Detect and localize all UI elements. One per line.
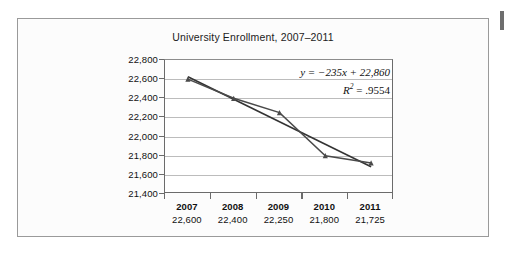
y-axis-tick-label: 22,200	[128, 111, 158, 122]
x-axis-category: 200822,400	[210, 200, 256, 227]
y-axis-labels: 22,80022,60022,40022,20022,00021,80021,6…	[94, 59, 158, 193]
y-axis-tick-label: 22,400	[128, 92, 158, 103]
equation-expression: = −235x + 22,860	[305, 66, 390, 78]
x-axis-year-label: 2011	[347, 200, 393, 213]
x-axis-value-label: 21,800	[301, 213, 347, 227]
x-axis-category: 200922,250	[256, 200, 302, 227]
figure-card: University Enrollment, 2007–2011 22,8002…	[17, 18, 489, 237]
y-axis-tick	[159, 155, 164, 156]
x-axis-tick	[301, 193, 302, 199]
y-axis-tick	[159, 174, 164, 175]
x-axis-value-label: 22,600	[164, 213, 210, 227]
x-axis-ticks	[164, 193, 393, 199]
x-axis-category: 201121,725	[347, 200, 393, 227]
x-axis-year-label: 2010	[301, 200, 347, 213]
y-axis-tick	[159, 193, 164, 194]
chart-canvas: 22,80022,60022,40022,20022,00021,80021,6…	[18, 19, 488, 236]
y-axis-tick-label: 21,600	[128, 168, 158, 179]
y-axis-tick-label: 21,400	[128, 188, 158, 199]
y-axis-tick-label: 21,800	[128, 149, 158, 160]
x-axis-value-label: 22,400	[210, 213, 256, 227]
x-axis-tick	[210, 193, 211, 199]
x-axis-value-label: 22,250	[256, 213, 302, 227]
trendline-annotation: y = −235x + 22,860 R2 = .9554	[234, 65, 390, 97]
x-axis-tick	[164, 193, 165, 199]
y-axis-tick	[159, 97, 164, 98]
y-axis-tick	[159, 136, 164, 137]
x-axis-category: 201021,800	[301, 200, 347, 227]
x-axis-tick	[256, 193, 257, 199]
trendline-equation: y = −235x + 22,860	[234, 65, 390, 79]
x-axis-tick	[347, 193, 348, 199]
x-axis-labels: 200722,600200822,400200922,250201021,800…	[164, 200, 393, 234]
x-axis-category: 200722,600	[164, 200, 210, 227]
y-axis-tick	[159, 59, 164, 60]
y-axis-tick-label: 22,600	[128, 73, 158, 84]
x-axis-value-label: 21,725	[347, 213, 393, 227]
x-axis-year-label: 2007	[164, 200, 210, 213]
y-axis-tick-label: 22,800	[128, 54, 158, 65]
y-axis-tick	[159, 116, 164, 117]
x-axis-year-label: 2008	[210, 200, 256, 213]
y-axis-tick	[159, 78, 164, 79]
r-squared-value: R2 = .9554	[234, 80, 390, 97]
r-symbol: R	[343, 84, 350, 96]
screenshot-root: University Enrollment, 2007–2011 22,8002…	[0, 0, 513, 254]
r-squared-number: = .9554	[354, 84, 390, 96]
x-axis-year-label: 2009	[256, 200, 302, 213]
y-axis-tick-label: 22,000	[128, 130, 158, 141]
page-edge-mark	[500, 11, 504, 30]
x-axis-tick	[392, 193, 393, 199]
